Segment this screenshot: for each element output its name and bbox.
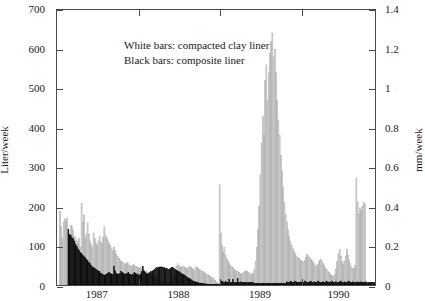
bar bbox=[344, 282, 345, 285]
bar bbox=[292, 283, 293, 285]
bar bbox=[110, 273, 111, 285]
bar bbox=[235, 283, 236, 285]
bar bbox=[86, 259, 87, 285]
bar bbox=[230, 283, 231, 285]
bar bbox=[316, 283, 317, 285]
bar bbox=[324, 283, 325, 285]
bar bbox=[342, 261, 343, 285]
bar bbox=[336, 282, 337, 285]
bar bbox=[303, 262, 304, 285]
bar bbox=[259, 206, 260, 285]
right-tick-mark bbox=[369, 10, 375, 11]
bar bbox=[332, 281, 333, 285]
bar bbox=[225, 255, 226, 285]
bar bbox=[90, 264, 91, 285]
bar bbox=[250, 283, 251, 285]
bar bbox=[81, 254, 82, 285]
bar bbox=[92, 267, 93, 285]
bar bbox=[351, 283, 352, 285]
leachate-rate-chart-figure: Liter/week mm/week White bars: compacted… bbox=[0, 0, 425, 301]
bar bbox=[169, 269, 170, 285]
x-tick-mark bbox=[139, 10, 140, 16]
bar bbox=[362, 206, 363, 285]
bar bbox=[291, 282, 292, 285]
x-tick-label: 1987 bbox=[86, 289, 108, 300]
left-tick-mark bbox=[57, 168, 63, 169]
bar bbox=[247, 283, 248, 285]
bar bbox=[304, 281, 305, 285]
bar bbox=[111, 274, 112, 285]
bar bbox=[198, 283, 199, 285]
bar bbox=[369, 283, 370, 285]
bar bbox=[358, 283, 359, 285]
bar bbox=[349, 281, 350, 285]
bar bbox=[123, 273, 124, 285]
left-tick-mark bbox=[57, 50, 63, 51]
bar bbox=[152, 271, 153, 285]
bar bbox=[274, 49, 275, 285]
bar bbox=[267, 100, 268, 285]
bar bbox=[254, 269, 255, 285]
bar bbox=[206, 274, 207, 285]
bar bbox=[282, 171, 283, 285]
bar bbox=[150, 272, 151, 285]
bar bbox=[274, 283, 275, 285]
bar bbox=[356, 178, 357, 285]
bar bbox=[288, 283, 289, 285]
left-tick-mark bbox=[57, 129, 63, 130]
bar bbox=[72, 238, 73, 285]
bar bbox=[346, 250, 347, 285]
left-tick-label: 100 bbox=[29, 241, 46, 252]
bar bbox=[244, 283, 245, 285]
bar bbox=[374, 283, 375, 285]
bar bbox=[298, 283, 299, 285]
bar bbox=[283, 187, 284, 285]
x-tick-mark bbox=[302, 279, 303, 285]
bar bbox=[61, 226, 62, 285]
bar bbox=[348, 255, 349, 285]
left-tick-label: 600 bbox=[29, 43, 46, 54]
bar bbox=[313, 283, 314, 285]
bar bbox=[363, 283, 364, 285]
bar bbox=[136, 274, 137, 285]
bar bbox=[278, 283, 279, 285]
bar bbox=[355, 283, 356, 285]
bar bbox=[93, 268, 94, 285]
bar bbox=[236, 283, 237, 285]
bar bbox=[208, 276, 209, 285]
bar bbox=[142, 266, 143, 285]
bar bbox=[271, 283, 272, 285]
bar bbox=[340, 281, 341, 285]
bar bbox=[291, 246, 292, 285]
bar bbox=[75, 244, 76, 285]
bar bbox=[348, 282, 349, 285]
bar bbox=[297, 283, 298, 285]
bar bbox=[87, 261, 88, 285]
bar bbox=[201, 283, 202, 285]
bar bbox=[308, 283, 309, 285]
bar bbox=[201, 271, 202, 285]
bar bbox=[242, 283, 243, 285]
bar bbox=[128, 272, 129, 285]
bar bbox=[339, 250, 340, 285]
bar bbox=[340, 257, 341, 285]
bar bbox=[285, 214, 286, 285]
bar bbox=[188, 278, 189, 285]
bar bbox=[91, 265, 92, 285]
left-tick-label: 300 bbox=[29, 162, 46, 173]
bar bbox=[69, 235, 70, 285]
bar bbox=[350, 283, 351, 285]
bar bbox=[84, 257, 85, 285]
bar bbox=[316, 267, 317, 285]
left-tick-mark bbox=[57, 208, 63, 209]
bar bbox=[249, 283, 250, 285]
bar bbox=[321, 261, 322, 285]
bar bbox=[319, 282, 320, 285]
bar bbox=[277, 100, 278, 285]
bar bbox=[226, 283, 227, 285]
bar bbox=[312, 283, 313, 285]
bar bbox=[286, 222, 287, 285]
left-tick-mark bbox=[57, 10, 63, 11]
bar bbox=[368, 283, 369, 285]
bar bbox=[351, 267, 352, 285]
